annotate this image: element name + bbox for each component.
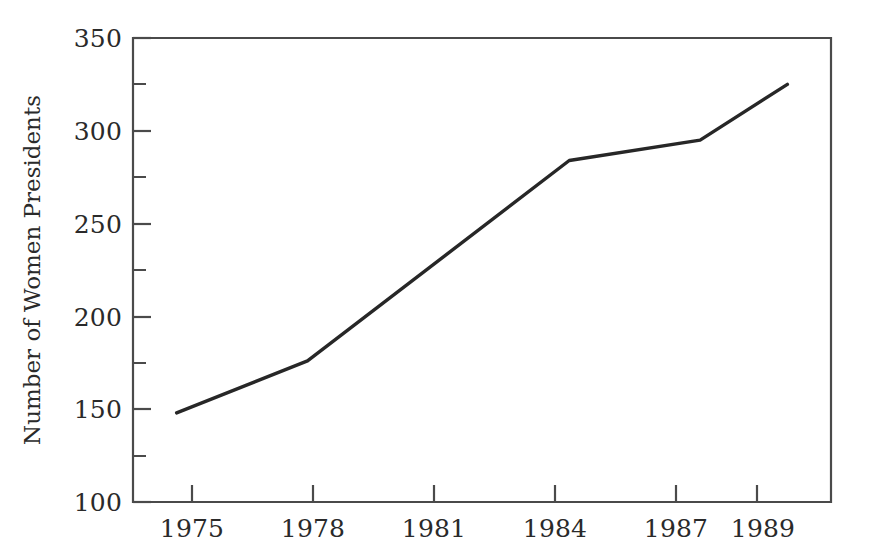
y-tick-label-250: 250 [74,210,122,239]
chart-canvas: 350 300 250 200 150 100 1975 1978 1981 1… [0,0,874,560]
x-tick-label-1984: 1984 [523,514,587,543]
y-tick-label-150: 150 [74,395,122,424]
y-axis-title: Number of Women Presidents [19,95,45,445]
x-tick-label-1981: 1981 [402,514,466,543]
y-tick-label-350: 350 [74,24,122,53]
y-tick-label-300: 300 [74,117,122,146]
y-tick-label-200: 200 [74,303,122,332]
chart-background [0,0,874,560]
x-tick-label-1989: 1989 [731,514,795,543]
line-chart: 350 300 250 200 150 100 1975 1978 1981 1… [0,0,874,560]
x-tick-label-1987: 1987 [644,514,708,543]
y-tick-label-100: 100 [74,488,122,517]
x-tick-label-1975: 1975 [160,514,224,543]
x-tick-label-1978: 1978 [281,514,345,543]
